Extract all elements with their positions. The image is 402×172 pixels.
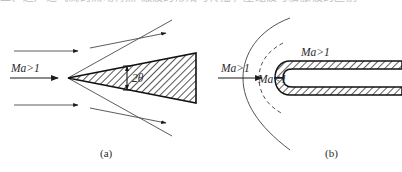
panel-b-group [218,18,402,150]
panel-b-inflow-label: Ma>1 [220,62,250,74]
blunt-body-wall-lower [275,78,402,95]
panel-b-subsonic-label: Ma<1 [257,73,287,85]
caption-a: (a) [100,147,112,159]
panel-a-group [10,20,196,136]
caption-b: (b) [325,147,338,159]
figure-root: 二、超声速气流的流动特点 激波的形成与传播，压缩波与膨胀波的区别 [0,0,402,172]
panel-b-supersonic-label: Ma>1 [300,46,330,58]
blunt-body-wall-upper [275,61,402,78]
supersonic-flow-diagram: Ma>1 2θ Ma>1 Ma<1 Ma>1 [0,0,402,172]
streamline-lower-deflected [90,108,166,123]
panel-a-inflow-label: Ma>1 [10,62,40,74]
panel-a-angle-label: 2θ [132,72,144,84]
streamline-upper-deflected [90,33,166,48]
